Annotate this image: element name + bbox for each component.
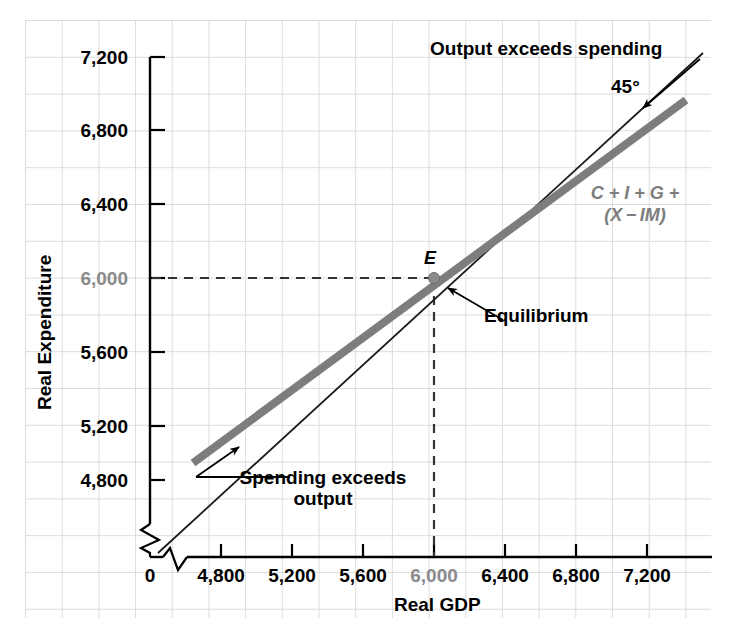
keynesian-cross-figure: 7,200 6,800 6,400 6,000 5,600 5,200 4,80… xyxy=(0,0,741,636)
x-tick-label-0: 0 xyxy=(110,565,190,586)
equilibrium-point-dot xyxy=(429,273,440,284)
x-tick-label-6800: 6,800 xyxy=(536,565,616,586)
annotation-equilibrium: Equilibrium xyxy=(484,305,589,326)
y-axis-title: Real Expenditure xyxy=(34,255,55,410)
annotation-spending-exceeds-output-line1: Spending exceeds xyxy=(228,467,418,488)
equilibrium-point-label: E xyxy=(424,248,436,268)
x-tick-label-6400: 6,400 xyxy=(465,565,545,586)
y-tick-label-6400: 6,400 xyxy=(28,194,128,215)
x-tick-label-6000: 6,000 xyxy=(394,565,474,586)
annotation-spending-exceeds-output-line2: output xyxy=(228,488,418,509)
x-tick-label-5200: 5,200 xyxy=(252,565,332,586)
x-axis-title: Real GDP xyxy=(394,594,474,615)
y-axis-break-mark xyxy=(141,524,159,557)
y-tick-label-7200: 7,200 xyxy=(28,47,128,68)
x-tick-label-4800: 4,800 xyxy=(181,565,261,586)
x-tick-label-7200: 7,200 xyxy=(607,565,687,586)
annotation-45-degree: 45° xyxy=(611,76,640,97)
y-tick-label-5200: 5,200 xyxy=(28,416,128,437)
expenditure-line xyxy=(193,100,686,463)
expenditure-curve-label-line2: (X − IM) xyxy=(560,205,710,227)
x-tick-label-5600: 5,600 xyxy=(323,565,403,586)
y-tick-label-6800: 6,800 xyxy=(28,120,128,141)
expenditure-curve-label-line1: C + I + G + xyxy=(560,183,710,205)
y-tick-marks xyxy=(150,57,165,480)
annotation-output-exceeds-spending: Output exceeds spending xyxy=(430,38,662,59)
y-tick-label-4800: 4,800 xyxy=(28,470,128,491)
expenditure-curve-label: C + I + G + (X − IM) xyxy=(560,183,710,226)
annotation-spending-exceeds-output: Spending exceeds output xyxy=(228,467,418,510)
output-exceeds-spending-arrow xyxy=(643,59,700,108)
